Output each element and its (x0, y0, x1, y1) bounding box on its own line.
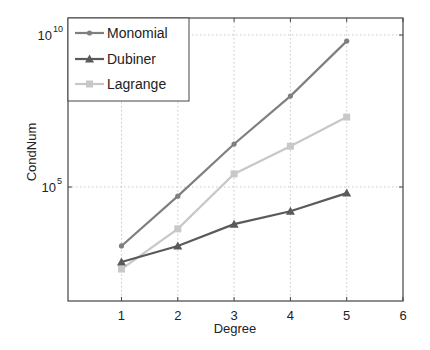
x-tick-label: 4 (287, 308, 294, 323)
y-tick-label: 10 (42, 180, 56, 195)
square-marker-icon (287, 143, 294, 150)
dot-marker-icon (119, 243, 124, 248)
dot-marker-icon (344, 39, 349, 44)
x-tick-label: 1 (118, 308, 125, 323)
condnum-line-chart: 1234561051010 MonomialDubinerLagrange De… (0, 0, 430, 350)
series-lagrange (118, 114, 350, 273)
legend-label: Lagrange (107, 76, 166, 92)
triangle-marker-icon (342, 189, 351, 197)
y-tick-label: 10 (38, 28, 52, 43)
chart-container: 1234561051010 MonomialDubinerLagrange De… (0, 0, 430, 350)
square-marker-icon (231, 170, 238, 177)
legend-label: Monomial (107, 25, 168, 41)
dot-marker-icon (87, 30, 92, 35)
x-axis-label: Degree (214, 321, 257, 336)
square-marker-icon (118, 266, 125, 273)
dot-marker-icon (288, 93, 293, 98)
dot-marker-icon (175, 194, 180, 199)
x-tick-label: 2 (174, 308, 181, 323)
square-marker-icon (174, 225, 181, 232)
y-axis-label: CondNum (24, 123, 39, 182)
y-tick-exponent: 10 (53, 24, 63, 34)
square-marker-icon (86, 81, 93, 88)
x-tick-label: 5 (343, 308, 350, 323)
y-tick-exponent: 5 (57, 176, 62, 186)
legend: MonomialDubinerLagrange (68, 18, 189, 101)
square-marker-icon (343, 114, 350, 121)
legend-label: Dubiner (107, 51, 156, 67)
x-tick-label: 6 (399, 308, 406, 323)
dot-marker-icon (231, 141, 236, 146)
